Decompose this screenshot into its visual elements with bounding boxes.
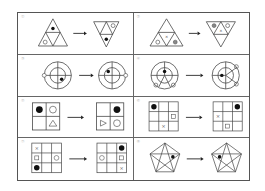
puzzle-cell-8: ⑧ <box>134 138 250 180</box>
svg-text:×: × <box>164 34 167 39</box>
svg-text:×: × <box>120 165 124 171</box>
puzzle-cell-7: ⑦ × × <box>18 138 134 180</box>
pentagram-figure <box>134 138 250 180</box>
grid3x3-figure: × × <box>134 97 250 138</box>
svg-text:×: × <box>161 123 165 129</box>
puzzle-grid: ① ② × <box>17 12 250 181</box>
puzzle-cell-2: ② × × <box>134 13 250 55</box>
triangle-transform-figure <box>18 13 133 54</box>
svg-text:×: × <box>35 145 39 151</box>
puzzle-cell-5: ⑤ <box>18 97 134 139</box>
ring-transform-figure <box>18 55 133 96</box>
puzzle-cell-4: ④ <box>134 55 250 97</box>
svg-text:×: × <box>215 113 219 119</box>
puzzle-cell-1: ① <box>18 13 134 55</box>
triangle-transform-figure: × × <box>134 13 250 54</box>
puzzle-cell-6: ⑥ × × <box>134 97 250 139</box>
grid3x3-figure: × × <box>18 138 133 180</box>
grid2x2-figure <box>18 97 133 138</box>
ring-spokes-figure <box>134 55 250 96</box>
puzzle-cell-3: ③ <box>18 55 134 97</box>
svg-text:×: × <box>219 28 222 33</box>
